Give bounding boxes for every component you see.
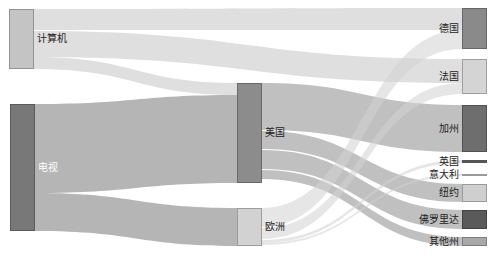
node-label-usa: 美国: [265, 127, 285, 139]
node-europe: [237, 208, 262, 246]
node-tv: [10, 104, 35, 231]
node-italy: [462, 174, 487, 176]
node-label-florida: 佛罗里达: [419, 214, 459, 226]
node-germany: [462, 8, 487, 49]
link-tv-europe: [35, 193, 237, 246]
node-label-computer: 计算机: [37, 33, 67, 45]
node-label-europe: 欧洲: [265, 221, 285, 233]
node-label-newyork: 纽约: [439, 187, 459, 199]
node-otherstates: [462, 237, 487, 246]
link-tv-usa: [35, 95, 237, 193]
node-newyork: [462, 184, 487, 202]
node-label-italy: 意大利: [429, 169, 459, 181]
node-florida: [462, 210, 487, 229]
node-label-tv: 电视: [38, 162, 58, 174]
node-france: [462, 59, 487, 94]
node-uk: [462, 160, 487, 163]
node-label-uk: 英国: [439, 156, 459, 168]
link-computer-germany: [34, 8, 462, 30]
node-label-otherstates: 其他州: [429, 236, 459, 248]
node-usa: [237, 83, 262, 183]
sankey-diagram: 计算机电视美国欧洲德国法国加州英国意大利纽约佛罗里达其他州: [0, 0, 495, 256]
node-california: [462, 105, 487, 152]
node-label-california: 加州: [439, 123, 459, 135]
node-label-france: 法国: [439, 71, 459, 83]
node-label-germany: 德国: [439, 23, 459, 35]
node-computer: [9, 9, 34, 69]
